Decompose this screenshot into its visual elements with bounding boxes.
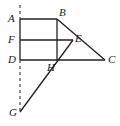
vertex-label-F: F bbox=[8, 34, 15, 45]
vertex-label-C: C bbox=[108, 54, 115, 65]
vertex-label-D: D bbox=[8, 54, 16, 65]
geometry-canvas bbox=[0, 0, 120, 126]
vertex-label-H: H bbox=[47, 62, 55, 73]
geometry-figure: A B F E D H C G bbox=[0, 0, 120, 126]
segment-GE-line bbox=[20, 40, 73, 112]
vertex-label-G: G bbox=[9, 107, 17, 118]
vertex-label-B: B bbox=[59, 7, 66, 18]
vertex-label-E: E bbox=[75, 33, 82, 44]
vertex-label-A: A bbox=[8, 13, 15, 24]
